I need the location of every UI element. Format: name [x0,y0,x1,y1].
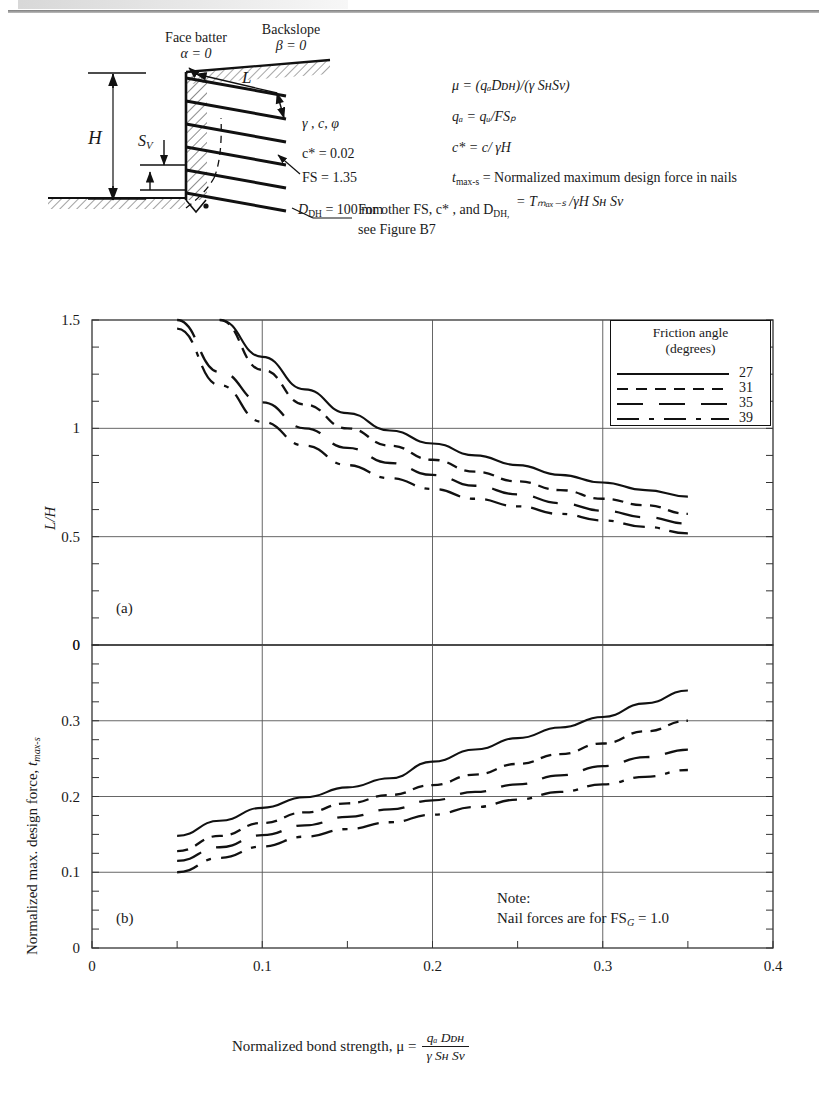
axis-tick-label: 0.2 [61,788,80,805]
legend-value-31: 31 [739,380,753,396]
wall-height-label: H [88,127,102,148]
ddh-symbol: D [298,202,308,217]
legend-entry-39: 39 [617,410,766,428]
note-value: = 1.0 [638,910,669,926]
legend-title-line1: Friction angle [653,325,728,340]
panel-b-tag: (b) [116,910,134,927]
page-header-rule [8,10,819,13]
note-heading: Note: [497,890,530,906]
x-axis-title: Normalized bond strength, μ = qₐ Dᴅʜ γ S… [232,1030,469,1063]
legend-swatch-dash [617,388,729,390]
fs-value-label: FS = 1.35 [302,170,357,186]
spacing-symbol: S [138,132,146,149]
equation-tmax-formula: = Tₘₐₓ₋ₛ /γH Sʜ Sᴠ [516,194,623,210]
legend-swatch-longdash [617,403,729,405]
other-fs-note-line1: For other FS, c* , and DDH, [358,202,509,219]
chart-note: Note: Nail forces are for FSG = 1.0 [497,888,669,930]
axis-tick-label: 0.2 [423,958,442,975]
soil-parameters-label: γ , c, φ [302,116,339,132]
backslope-title: Backslope [262,22,320,37]
axis-tick-label: 0.3 [61,712,80,729]
axis-tick-label: 0 [73,637,81,654]
face-batter-value: α = 0 [181,46,212,61]
y-axis-b-text: Normalized max. design force, [24,766,40,955]
legend-swatch-dashdot [617,418,729,420]
tmax-definition-text: = Normalized maximum design force in nai… [483,170,737,185]
spacing-subscript: V [146,139,153,151]
y-axis-a-text: L/H [42,507,58,530]
y-axis-label-panel-b: Normalized max. design force, tmax-s [24,737,42,955]
figure-page: Face batter α = 0 Backslope β = 0 L H SV… [0,0,827,1106]
axis-tick-label: 0.1 [253,958,272,975]
backslope-value: β = 0 [276,38,306,53]
legend-title: Friction angle (degrees) [611,325,770,356]
axis-tick-label: 0 [73,940,81,957]
legend-value-27: 27 [739,365,753,381]
equation-cstar: c* = c/ γH [452,140,511,156]
ddh-subscript: DH [308,209,322,219]
tmax-subscript: max-s [456,177,479,187]
equation-qa: qₐ = qᵤ/FSₚ [452,109,516,125]
panel-a-tag: (a) [116,600,133,617]
other-fs-subscript: DH, [493,209,509,219]
x-axis-title-text: Normalized bond strength, μ = [232,1038,416,1055]
legend-value-39: 39 [739,410,753,426]
axis-tick-label: 0.4 [764,958,783,975]
axis-tick-label: 0.5 [61,528,80,545]
axis-tick-label: 0.1 [61,864,80,881]
legend-swatch-solid [617,373,729,375]
x-axis-title-fraction: qₐ Dᴅʜ γ Sʜ Sᴠ [422,1030,468,1063]
legend-value-35: 35 [739,395,753,411]
axis-tick-label: 0 [88,958,96,975]
backslope-label: Backslope β = 0 [243,22,339,53]
equation-mu: μ = (qₐDᴅʜ)/(γ SʜSᴠ) [452,78,570,94]
axis-tick-label: 1 [73,420,81,437]
equation-tmax-definition: tmax-s = Normalized maximum design force… [452,170,737,187]
y-axis-b-subscript: max-s [31,737,42,761]
axis-tick-label: 1.5 [61,312,80,329]
face-batter-label: Face batter α = 0 [148,30,244,61]
other-fs-text: For other FS, c* , and D [358,202,493,217]
x-axis-fraction-numerator: qₐ Dᴅʜ [423,1030,469,1046]
legend-title-line2: (degrees) [665,341,715,356]
cstar-value-label: c* = 0.02 [302,146,355,162]
axis-tick-label: 0.3 [593,958,612,975]
friction-angle-legend: Friction angle (degrees) 27 31 35 39 [610,320,771,426]
y-axis-b-symbol: t [24,762,40,766]
x-axis-fraction-denominator: γ Sʜ Sᴠ [422,1046,468,1063]
note-subscript: G [627,917,634,928]
note-text: Nail forces are for FS [497,910,627,926]
page-header-smudge [18,0,348,9]
nail-length-label: L [242,68,251,87]
face-batter-title: Face batter [165,30,227,45]
vertical-spacing-label: SV [138,132,153,151]
soil-nail-wall-schematic: Face batter α = 0 Backslope β = 0 L H SV… [0,22,827,237]
other-fs-note-line2: see Figure B7 [358,222,436,238]
y-axis-label-panel-a: L/H [42,507,59,530]
